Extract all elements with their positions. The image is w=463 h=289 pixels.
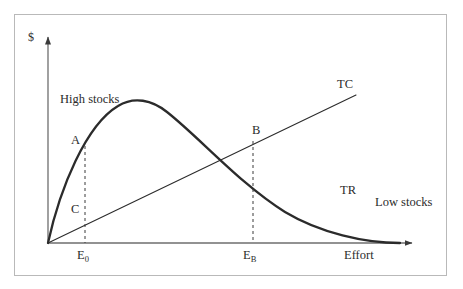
x-tick-label-eb-base: E [243, 248, 251, 262]
plot-canvas [0, 0, 463, 289]
point-label-c: C [71, 203, 79, 216]
total-cost-label: TC [337, 78, 353, 91]
total-revenue-label: TR [340, 184, 356, 197]
total-revenue-curve [48, 100, 400, 243]
high-stocks-annotation: High stocks [60, 93, 119, 106]
x-tick-label-eb: EB [243, 249, 256, 262]
point-label-b: B [252, 124, 260, 137]
x-tick-label-e0-base: E [77, 248, 85, 262]
x-tick-label-e0-subscript: 0 [85, 254, 89, 264]
y-axis-label: $ [28, 31, 34, 43]
total-cost-line [48, 95, 356, 243]
x-axis-label: Effort [344, 249, 374, 262]
x-tick-label-eb-subscript: B [251, 254, 257, 264]
low-stocks-annotation: Low stocks [375, 196, 432, 209]
bioeconomic-diagram-figure: $ High stocks A C B TC TR Low stocks E0 … [0, 0, 463, 289]
x-tick-label-e0: E0 [77, 249, 89, 262]
point-label-a: A [71, 134, 80, 147]
